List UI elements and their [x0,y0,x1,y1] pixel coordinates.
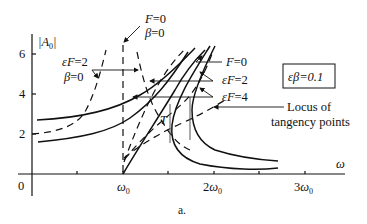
y-tick-6: 6 [19,47,25,61]
tangency-label: T [160,113,168,127]
origin-label: 0 [18,179,24,193]
y-tick-4: 4 [19,87,26,101]
y-tick-2: 2 [19,127,25,141]
x-tick-2omega0: 2ω0 [203,180,222,196]
y-axis-label: |A0| [38,35,57,51]
x-axis-label: ω [336,157,345,171]
frequency-response-diagram: 6 4 2 0 ω0 2ω0 3ω0 ω |A0| a. T [0,0,367,224]
figure-caption: a. [178,204,186,216]
label-beta0: β=0 [144,26,165,40]
parameter-box-text: εβ=0.1 [288,70,323,84]
label-beta0-undamped: β=0 [63,70,84,84]
label-eF4: εF=4 [222,90,249,104]
label-F0: F=0 [144,12,166,26]
x-tick-omega0: ω0 [117,180,130,196]
label-locus-2: tangency points [271,115,350,129]
label-locus-1: Locus of [287,100,332,114]
label-eF2: εF=2 [222,73,248,87]
x-tick-3omega0: 3ω0 [294,180,313,196]
annotation-leaders [92,26,284,107]
label-F0-damped: F=0 [225,55,247,69]
label-eF2-undamped: εF=2 [62,55,88,69]
